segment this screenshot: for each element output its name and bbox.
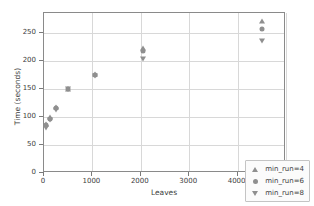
gridline-vertical	[141, 13, 142, 171]
data-point	[140, 57, 146, 62]
y-tick-label: 250	[0, 28, 36, 36]
x-tick-label: 4000	[228, 177, 246, 185]
legend-label: min_run=4	[265, 165, 304, 173]
legend-item: min_run=6	[250, 176, 304, 186]
legend-circle-icon	[250, 179, 260, 184]
x-tick	[237, 172, 238, 176]
data-point	[141, 48, 146, 53]
x-tick-label: 2000	[131, 177, 149, 185]
data-point	[65, 86, 71, 91]
gridline-vertical	[92, 13, 93, 171]
data-point	[259, 27, 264, 32]
gridline-vertical	[238, 13, 239, 171]
legend-triangle-down-icon	[250, 191, 260, 196]
x-tick-label: 1000	[82, 177, 100, 185]
legend-item: min_run=8	[250, 188, 304, 198]
data-point	[259, 39, 265, 44]
x-tick-label: 0	[41, 177, 45, 185]
y-tick-label: 0	[0, 168, 36, 176]
gridline-vertical	[286, 13, 287, 171]
y-tick	[39, 116, 43, 117]
gridline-vertical	[189, 13, 190, 171]
data-point	[53, 107, 59, 112]
data-point	[43, 126, 49, 131]
legend-item: min_run=4	[250, 164, 304, 174]
gridline-horizontal	[44, 117, 284, 118]
y-tick	[39, 88, 43, 89]
legend: min_run=4min_run=6min_run=8	[245, 160, 310, 202]
y-tick	[39, 144, 43, 145]
gridline-horizontal	[44, 145, 284, 146]
gridline-horizontal	[44, 33, 284, 34]
x-tick-label: 3000	[179, 177, 197, 185]
x-tick	[43, 172, 44, 176]
y-tick	[39, 172, 43, 173]
data-point	[259, 18, 265, 23]
scatter-plot-figure: 010002000300040005000 050100150200250 Le…	[0, 0, 314, 206]
data-point	[47, 117, 53, 122]
gridline-horizontal	[44, 89, 284, 90]
y-axis-label: Time (seconds)	[13, 52, 22, 142]
y-tick	[39, 60, 43, 61]
x-tick	[140, 172, 141, 176]
legend-label: min_run=8	[265, 189, 304, 197]
legend-label: min_run=6	[265, 177, 304, 185]
data-point	[92, 74, 98, 79]
plot-area	[43, 12, 285, 172]
x-tick	[188, 172, 189, 176]
legend-triangle-up-icon	[250, 167, 260, 172]
x-tick	[91, 172, 92, 176]
y-tick	[39, 32, 43, 33]
gridline-horizontal	[44, 61, 284, 62]
